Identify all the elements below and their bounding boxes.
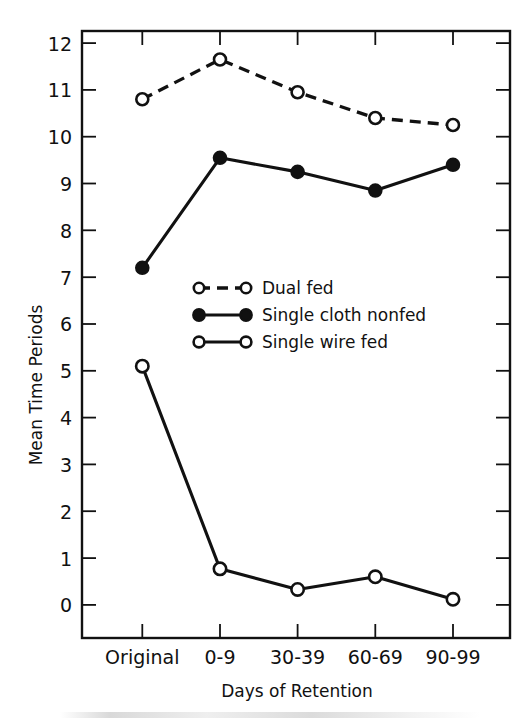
legend-entry-single-wire-fed[interactable]: Single wire fed bbox=[194, 332, 388, 352]
data-point bbox=[447, 119, 459, 131]
series-markers-dual-fed bbox=[136, 53, 459, 131]
y-tick-label: 8 bbox=[60, 220, 72, 242]
y-axis-title: Mean Time Periods bbox=[26, 305, 46, 466]
data-point bbox=[292, 166, 304, 178]
series-markers-single-wire-fed bbox=[136, 360, 459, 606]
y-tick-label: 5 bbox=[60, 360, 72, 382]
y-tick-label: 4 bbox=[60, 407, 72, 429]
y-tick-label: 11 bbox=[48, 79, 72, 101]
legend-swatch-marker-start-single-wire-fed bbox=[194, 337, 205, 348]
data-point bbox=[214, 152, 226, 164]
y-tick-label: 12 bbox=[48, 33, 72, 55]
line-chart: 12 11 10 9 8 7 6 5 4 3 2 1 0 Original 0-… bbox=[0, 0, 531, 720]
figure-container: 12 11 10 9 8 7 6 5 4 3 2 1 0 Original 0-… bbox=[0, 0, 531, 720]
data-point bbox=[291, 583, 303, 595]
y-tick-label: 6 bbox=[60, 313, 72, 335]
y-axis-ticks-left bbox=[82, 43, 96, 605]
data-point bbox=[136, 93, 148, 105]
data-point bbox=[292, 86, 304, 98]
series-dual-fed bbox=[136, 53, 459, 131]
data-point bbox=[447, 159, 459, 171]
data-point bbox=[369, 112, 381, 124]
y-tick-label: 1 bbox=[60, 548, 72, 570]
legend: Dual fed Single cloth nonfed Single wire… bbox=[193, 278, 426, 352]
x-tick-labels: Original 0-9 30-39 60-69 90-99 bbox=[105, 646, 480, 668]
legend-swatch-marker-start-single-cloth-nonfed bbox=[193, 309, 204, 320]
y-tick-label: 3 bbox=[60, 454, 72, 476]
y-tick-label: 10 bbox=[48, 126, 72, 148]
data-point bbox=[214, 53, 226, 65]
legend-swatch-marker-end-dual-fed bbox=[241, 283, 251, 293]
legend-label-dual-fed: Dual fed bbox=[262, 278, 334, 298]
data-point bbox=[214, 563, 226, 575]
legend-swatch-marker-start-dual-fed bbox=[194, 283, 204, 293]
series-line-single-wire-fed bbox=[142, 366, 453, 599]
legend-entry-single-cloth-nonfed[interactable]: Single cloth nonfed bbox=[193, 305, 426, 325]
y-tick-labels: 12 11 10 9 8 7 6 5 4 3 2 1 0 bbox=[48, 33, 72, 617]
y-axis-ticks-right bbox=[496, 43, 510, 605]
data-point bbox=[369, 571, 381, 583]
series-single-wire-fed bbox=[136, 360, 459, 606]
x-tick-label: 30-39 bbox=[270, 646, 325, 668]
x-tick-label: 90-99 bbox=[425, 646, 480, 668]
page-edge-artifact bbox=[60, 712, 480, 718]
legend-swatch-marker-end-single-cloth-nonfed bbox=[240, 309, 251, 320]
y-tick-label: 2 bbox=[60, 501, 72, 523]
series-markers-single-cloth-nonfed bbox=[136, 152, 459, 274]
series-single-cloth-nonfed bbox=[136, 152, 459, 274]
y-tick-label: 9 bbox=[60, 173, 72, 195]
legend-entry-dual-fed[interactable]: Dual fed bbox=[194, 278, 334, 298]
data-point bbox=[136, 262, 148, 274]
x-axis-title: Days of Retention bbox=[221, 681, 373, 701]
x-tick-label: 60-69 bbox=[348, 646, 403, 668]
legend-swatch-marker-end-single-wire-fed bbox=[241, 337, 252, 348]
y-tick-label: 7 bbox=[60, 267, 72, 289]
data-point bbox=[447, 593, 459, 605]
x-tick-label: 0-9 bbox=[204, 646, 235, 668]
data-point bbox=[369, 185, 381, 197]
data-point bbox=[136, 360, 148, 372]
x-tick-label: Original bbox=[105, 646, 179, 668]
legend-label-single-cloth-nonfed: Single cloth nonfed bbox=[262, 305, 426, 325]
legend-label-single-wire-fed: Single wire fed bbox=[262, 332, 388, 352]
y-tick-label: 0 bbox=[60, 594, 72, 616]
x-axis-ticks-top bbox=[142, 31, 453, 45]
x-axis-ticks-bottom bbox=[142, 624, 453, 638]
